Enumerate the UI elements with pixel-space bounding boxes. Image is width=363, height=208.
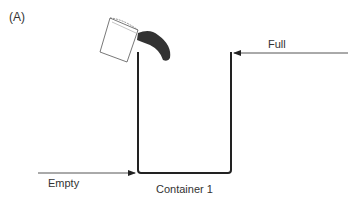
- empty-label: Empty: [48, 177, 79, 189]
- container-label: Container 1: [156, 183, 213, 195]
- container-1: [138, 52, 231, 173]
- poured-material: [137, 31, 170, 61]
- full-label: Full: [268, 38, 286, 50]
- pouring-bucket-icon: [100, 18, 138, 62]
